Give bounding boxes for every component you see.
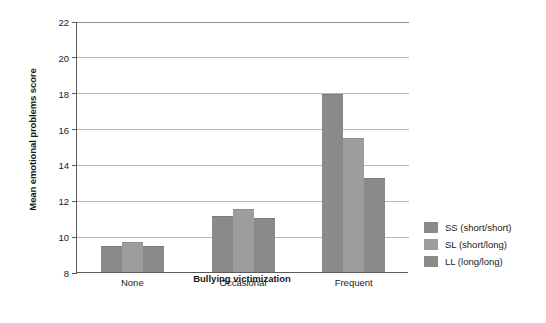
bar-group-occasional [212,21,275,272]
y-axis-title: Mean emotional problems score [27,20,38,260]
plot-area: 222018161412108NoneOccasionalFrequent [76,22,408,273]
bar-none-ll [143,246,164,272]
bar-frequent-ll [364,178,385,272]
y-axis-tick-label: 8 [64,268,69,279]
y-axis-tick-label: 22 [58,17,69,28]
bar-none-ss [101,246,122,272]
bar-none-sl [122,242,143,272]
y-axis-tick [72,93,77,94]
legend-label: LL (long/long) [445,256,503,267]
y-axis-tick-label: 20 [58,52,69,63]
legend-label: SS (short/short) [445,222,512,233]
legend-swatch-icon [424,256,438,267]
legend-item-sl: SL (short/long) [424,236,512,253]
legend-swatch-icon [424,239,438,250]
y-axis-tick-label: 12 [58,196,69,207]
bar-frequent-sl [343,138,364,272]
legend-label: SL (short/long) [445,239,507,250]
bar-frequent-ss [322,94,343,272]
y-axis-tick [72,165,77,166]
bar-group-none [101,21,164,272]
bar-occasional-ll [254,218,275,272]
y-axis-tick-label: 10 [58,232,69,243]
chart-legend: SS (short/short)SL (short/long)LL (long/… [424,219,512,270]
y-axis-tick-label: 16 [58,124,69,135]
legend-item-ss: SS (short/short) [424,219,512,236]
chart-figure: Mean emotional problems score 2220181614… [0,0,546,323]
y-axis-tick [72,57,77,58]
y-axis-tick-label: 14 [58,160,69,171]
bar-group-frequent [322,21,385,272]
legend-item-ll: LL (long/long) [424,253,512,270]
y-axis-tick [72,201,77,202]
y-axis-tick [72,237,77,238]
x-axis-title: Bullying victimization [76,273,408,284]
y-axis-tick [72,22,77,23]
bar-occasional-sl [233,209,254,272]
bar-occasional-ss [212,216,233,272]
legend-swatch-icon [424,222,438,233]
y-axis-tick [72,129,77,130]
y-axis-tick-label: 18 [58,88,69,99]
